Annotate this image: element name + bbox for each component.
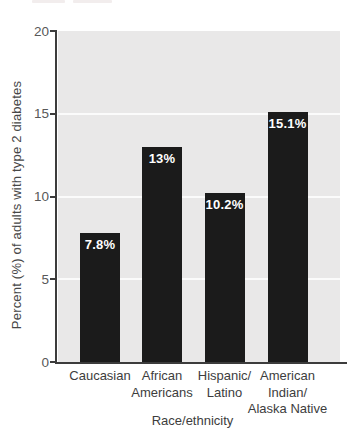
y-tick-mark-0 [50, 361, 55, 363]
y-tick-mark-15 [50, 113, 55, 115]
bar-chart-figure: Percent (%) of adults with type 2 diabet… [0, 0, 347, 432]
bar-value-label: 13% [149, 151, 176, 166]
x-axis-title: Race/ethnicity [120, 413, 265, 428]
y-tick-mark-10 [50, 196, 55, 198]
y-tick-label-0: 0 [22, 356, 49, 369]
y-tick-label-5: 5 [22, 273, 49, 286]
bar-2: 13% [142, 147, 182, 362]
bar-1: 7.8% [80, 233, 120, 362]
bar-4: 15.1% [268, 112, 308, 362]
y-tick-label-15: 15 [22, 107, 49, 120]
bar-3: 10.2% [205, 193, 245, 362]
scan-cutoff-artifact [32, 0, 65, 3]
category-label-4: American Indian/ Alaska Native [240, 368, 336, 418]
bar-value-label: 7.8% [85, 237, 115, 252]
bar-value-label: 10.2% [206, 197, 244, 212]
x-axis-line [55, 362, 347, 364]
y-tick-label-20: 20 [22, 25, 49, 38]
y-tick-mark-20 [50, 30, 55, 32]
bar-value-label: 15.1% [269, 116, 307, 131]
scan-cutoff-artifact [73, 0, 112, 3]
y-tick-mark-5 [50, 278, 55, 280]
plot-area: 7.8%13%10.2%15.1% [58, 31, 340, 362]
y-tick-label-10: 10 [22, 190, 49, 203]
y-axis-line [55, 30, 57, 364]
